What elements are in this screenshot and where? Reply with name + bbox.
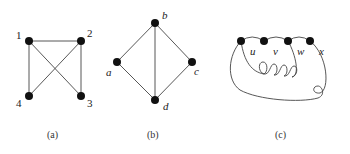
edge-b-c [155,23,192,62]
edge-label-w: w [297,45,305,57]
graph-c: u v w x (c) [230,37,326,141]
node-label-1: 1 [16,29,22,41]
node-label-3: 3 [87,97,93,109]
node-b [151,19,159,27]
edge-a-d [117,62,155,100]
node-label-d: d [163,100,169,112]
edge-label-u: u [250,45,256,57]
edge-b-a [117,23,155,62]
edge-c-d [155,62,192,100]
node-c2 [260,37,268,45]
edge-outer-loop [230,41,326,100]
node-c3 [284,37,292,45]
node-label-a: a [106,66,112,78]
node-label-c: c [194,65,199,77]
edge-label-v: v [273,45,278,57]
node-3 [77,92,85,100]
graph-a: 1 2 3 4 (a) [16,27,93,141]
node-4 [25,92,33,100]
node-c1 [237,37,245,45]
graph-figure: 1 2 3 4 (a) b a c d (b) u v [0,0,350,154]
caption-c: (c) [275,129,286,141]
node-c4 [306,37,314,45]
node-a [113,58,121,66]
node-label-4: 4 [16,97,22,109]
node-1 [25,37,33,45]
node-label-2: 2 [87,27,93,39]
caption-a: (a) [47,129,58,141]
graph-b: b a c d (b) [106,9,199,141]
edge-label-x: x [318,45,324,57]
caption-b: (b) [147,129,159,141]
node-d [151,96,159,104]
node-label-b: b [162,9,168,21]
node-2 [77,37,85,45]
